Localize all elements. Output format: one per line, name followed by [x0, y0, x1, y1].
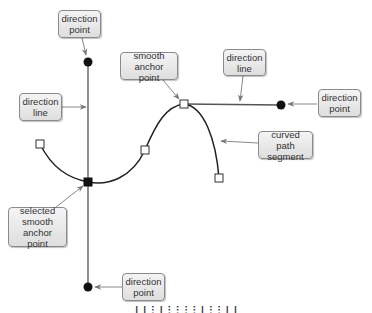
callout-bottom-direction-point: direction point [122, 273, 165, 301]
callout-left-direction-line: direction line [19, 93, 62, 121]
leader-top-direction-point [82, 38, 86, 55]
selected-smooth-anchor-point[interactable] [84, 178, 92, 186]
right-end-anchor-point[interactable] [215, 174, 223, 182]
leader-right-direction-line [240, 76, 243, 101]
leader-smooth-anchor [163, 80, 179, 99]
horizontal-direction-line[interactable] [184, 104, 281, 105]
callout-smooth-anchor-point: smooth anchor point [120, 52, 178, 80]
right-direction-point[interactable] [277, 101, 286, 110]
figure-caption-text: | | ⁞ | ⁞ ⁞ ⁞ ⁞ | ⁞ ⁞ | | [0, 304, 372, 313]
callout-right-direction-line: direction line [223, 49, 266, 76]
callout-top-direction-point: direction point [58, 10, 101, 38]
left-end-anchor-point[interactable] [36, 140, 44, 148]
smooth-anchor-diagram [0, 0, 372, 313]
curved-path[interactable] [40, 104, 219, 183]
leader-selected-anchor [56, 186, 83, 207]
callout-curved-path-segment: curved path segment [258, 131, 313, 159]
middle-anchor-point[interactable] [141, 146, 149, 154]
callout-selected-smooth-anchor-point: selected smooth anchor point [8, 207, 67, 247]
top-direction-point[interactable] [84, 58, 93, 67]
bottom-direction-point[interactable] [84, 283, 93, 292]
figure-caption: | | ⁞ | ⁞ ⁞ ⁞ ⁞ | ⁞ ⁞ | | [0, 304, 372, 313]
smooth-anchor-point[interactable] [180, 100, 188, 108]
callout-right-direction-point: direction point [318, 89, 361, 117]
leader-curved-path-segment [221, 141, 258, 143]
